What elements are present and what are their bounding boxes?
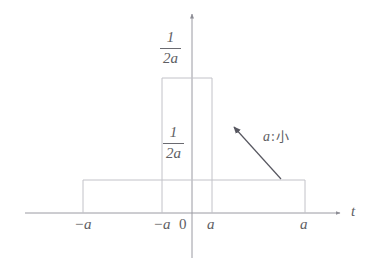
tick-label-origin: 0 <box>179 217 187 232</box>
annotation-variable: a <box>263 129 270 144</box>
tall-pulse-height-denominator: 2a <box>160 50 181 67</box>
wide-pulse-height-label: 1 2a <box>163 124 184 162</box>
tall-pulse-height-label: 1 2a <box>160 29 181 67</box>
wide-pulse-rect <box>83 180 305 213</box>
fraction-bar <box>160 48 181 49</box>
rectangular-pulse-figure: 1 2a 1 2a −a −a 0 a a t a:小 <box>0 0 380 268</box>
tall-pulse-height-numerator: 1 <box>160 29 181 47</box>
tick-label-a-narrow: a <box>207 217 215 232</box>
wide-pulse-height-numerator: 1 <box>163 124 184 142</box>
x-axis-label: t <box>351 204 355 219</box>
fraction-bar <box>163 143 184 144</box>
tick-label-a-wide: a <box>300 217 308 232</box>
wide-pulse-height-denominator: 2a <box>163 145 184 162</box>
tick-label-minus-a-wide: −a <box>74 217 92 232</box>
annotation-a-small: a:小 <box>263 126 289 145</box>
tick-label-minus-a-narrow: −a <box>153 217 171 232</box>
figure-canvas <box>0 0 380 268</box>
annotation-description: 小 <box>276 129 289 144</box>
